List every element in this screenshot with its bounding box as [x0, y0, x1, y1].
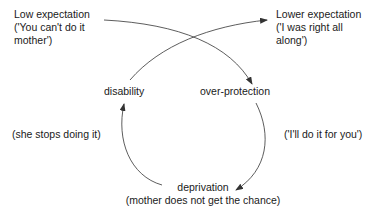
low-expectation-title: Low expectation: [14, 8, 90, 21]
arrow-low-expectation-to-over-protection: [104, 20, 252, 84]
lower-expectation-quote-2: along'): [276, 34, 361, 47]
low-expectation-quote-2: mother'): [14, 34, 90, 47]
node-disability: disability: [104, 85, 144, 98]
node-over-protection: over-protection: [200, 85, 270, 98]
node-deprivation: deprivation (mother does not get the cha…: [118, 181, 288, 207]
arrow-over-protection-to-deprivation: [236, 103, 265, 190]
node-lower-expectation: Lower expectation ('I was right all alon…: [276, 8, 361, 47]
annotation-she-stops: (she stops doing it): [12, 128, 101, 141]
lower-expectation-title: Lower expectation: [276, 8, 361, 21]
node-low-expectation: Low expectation ('You can't do it mother…: [14, 8, 90, 47]
deprivation-subtitle: (mother does not get the chance): [118, 194, 288, 207]
low-expectation-quote-1: ('You can't do it: [14, 21, 90, 34]
annotation-ill-do-it: ('I'll do it for you'): [284, 128, 362, 141]
arrow-disability-to-lower-expectation: [130, 20, 267, 80]
arrow-deprivation-to-disability: [122, 104, 162, 185]
lower-expectation-quote-1: ('I was right all: [276, 21, 361, 34]
deprivation-title: deprivation: [118, 181, 288, 194]
